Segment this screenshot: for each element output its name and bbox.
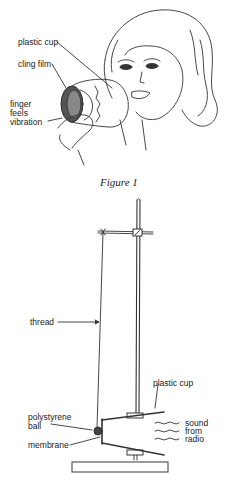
label-cling-film: cling film	[18, 60, 51, 69]
girl-illustration	[104, 10, 217, 150]
label-vibration: vibration	[10, 118, 42, 127]
polystyrene-ball	[94, 427, 102, 435]
label-plastic-cup: plastic cup	[18, 38, 58, 47]
label-ball: ball	[28, 422, 41, 431]
cup-side-view	[102, 412, 164, 455]
label-plastic-cup-2: plastic cup	[153, 379, 193, 388]
retort-stand	[72, 199, 168, 473]
label-thread: thread	[30, 318, 54, 327]
cup-illustration	[58, 79, 128, 165]
thread-line	[97, 233, 103, 428]
figure-1-caption: Figure 1	[100, 176, 138, 188]
label-membrane: membrane	[28, 441, 69, 450]
label-radio: radio	[185, 435, 204, 444]
